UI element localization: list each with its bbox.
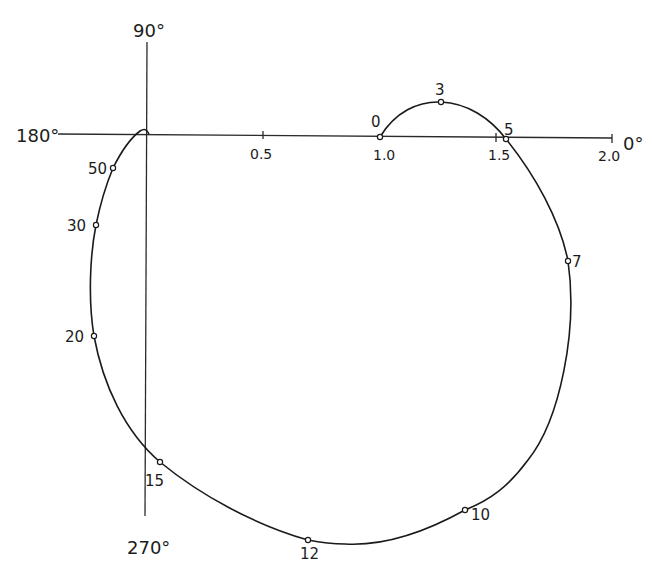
tick-label-1-0: 1.0: [373, 147, 395, 163]
point-label-12: 12: [300, 545, 319, 563]
point-marker-30: [93, 222, 98, 227]
label-0-degrees: 0°: [623, 133, 643, 154]
point-marker-50: [110, 165, 115, 170]
point-label-3: 3: [435, 81, 445, 99]
polar-plot: 90° 180° 0° 270° 0.5 1.0 1.5 2.0 0 3 5 7…: [0, 0, 653, 569]
label-270-degrees: 270°: [127, 537, 170, 558]
imaginary-axis: [145, 42, 147, 516]
point-marker-20: [91, 333, 96, 338]
point-label-15: 15: [145, 472, 164, 490]
point-label-0: 0: [371, 113, 381, 131]
tick-label-0-5: 0.5: [250, 146, 272, 162]
point-label-10: 10: [471, 506, 490, 524]
point-marker-12: [305, 537, 310, 542]
point-marker-10: [462, 507, 467, 512]
point-label-30: 30: [67, 217, 86, 235]
point-marker-0: [377, 134, 382, 139]
point-marker-15: [157, 459, 162, 464]
label-180-degrees: 180°: [16, 125, 59, 146]
point-marker-7: [565, 258, 570, 263]
real-axis: [58, 134, 612, 138]
tick-label-1-5: 1.5: [488, 147, 510, 163]
tick-label-2-0: 2.0: [598, 148, 620, 164]
point-label-50: 50: [88, 160, 107, 178]
point-label-5: 5: [504, 121, 514, 139]
point-label-20: 20: [65, 328, 84, 346]
point-label-7: 7: [572, 253, 582, 271]
point-marker-3: [438, 99, 443, 104]
label-90-degrees: 90°: [133, 20, 165, 41]
